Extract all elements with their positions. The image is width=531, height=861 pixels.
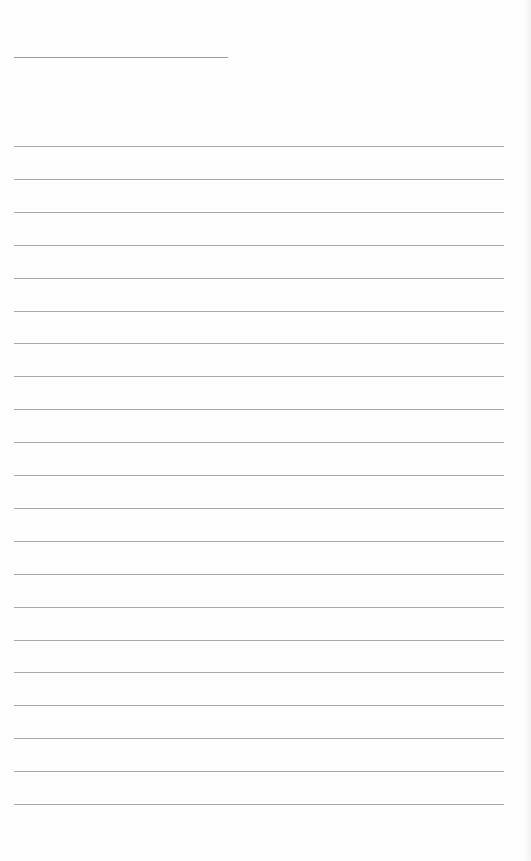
ruled-line — [14, 508, 504, 509]
ruled-line — [14, 738, 504, 739]
ruled-line — [14, 179, 504, 180]
ruled-line — [14, 541, 504, 542]
ruled-line — [14, 574, 504, 575]
ruled-line — [14, 343, 504, 344]
ruled-line — [14, 804, 504, 805]
ruled-line — [14, 376, 504, 377]
page-edge-shadow — [523, 0, 531, 861]
ruled-line — [14, 212, 504, 213]
ruled-line — [14, 442, 504, 443]
ruled-line — [14, 607, 504, 608]
lined-page — [0, 0, 531, 861]
header-name-line — [14, 57, 228, 58]
ruled-line — [14, 278, 504, 279]
ruled-line — [14, 771, 504, 772]
ruled-line — [14, 146, 504, 147]
ruled-line — [14, 640, 504, 641]
ruled-line — [14, 672, 504, 673]
ruled-line — [14, 311, 504, 312]
ruled-line — [14, 409, 504, 410]
ruled-line — [14, 705, 504, 706]
ruled-line — [14, 475, 504, 476]
ruled-line — [14, 245, 504, 246]
